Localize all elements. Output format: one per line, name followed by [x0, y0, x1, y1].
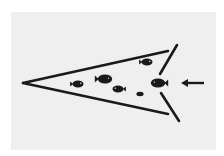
- fish-trap-diagram: [0, 0, 224, 156]
- trap-bottom-wall: [23, 83, 168, 114]
- fish-icon: [113, 86, 126, 93]
- funnel-lower-wing: [161, 93, 179, 121]
- fish-group: [70, 59, 168, 97]
- fish-icon: [95, 74, 112, 83]
- fish-icon: [70, 81, 83, 88]
- fish-icon: [151, 78, 168, 87]
- fish-icon: [136, 92, 143, 96]
- fish-icon: [139, 59, 152, 66]
- arrow-icon: [181, 79, 204, 87]
- funnel-upper-wing: [160, 45, 177, 74]
